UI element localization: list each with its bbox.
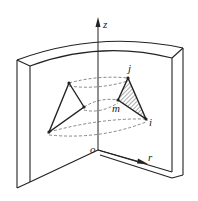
node-i [144,117,147,120]
wall-top-left-edge [17,60,30,66]
z-axis-label: z [102,18,108,30]
wall-top-inner-arc [30,51,172,66]
wall-left-bottom-edge [17,182,30,188]
wall-bottom-right-outer [100,155,172,178]
curved-wall [17,41,183,188]
node-j [126,76,129,79]
axisymmetric-diagram: z r o j m i [0,0,198,201]
z-axis [96,17,101,150]
node-i-label: i [149,116,152,128]
origin-label: o [90,143,96,155]
z-arrow-icon [96,17,101,27]
node-j-label: j [126,62,131,74]
wall-top-right-edge [172,48,183,58]
r-axis-label: r [148,151,153,163]
wall-bottom-left [30,150,98,182]
left-triangle [47,81,85,133]
wall-right-bottom-edge [172,175,183,178]
r-arrow-icon [137,159,148,165]
node-m-label: m [112,102,120,114]
